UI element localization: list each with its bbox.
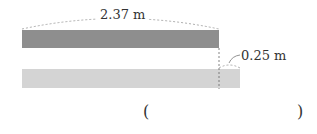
bottom-bar xyxy=(22,69,240,88)
difference-label: 0.25 m xyxy=(241,49,286,62)
leader-line xyxy=(229,55,240,63)
difference-brace xyxy=(219,65,240,68)
top-bar xyxy=(22,30,219,48)
tape-diagram xyxy=(0,0,317,134)
answer-close-paren: ) xyxy=(297,104,303,120)
top-bar-label: 2.37 m xyxy=(97,8,148,21)
answer-open-paren: ( xyxy=(143,104,149,120)
